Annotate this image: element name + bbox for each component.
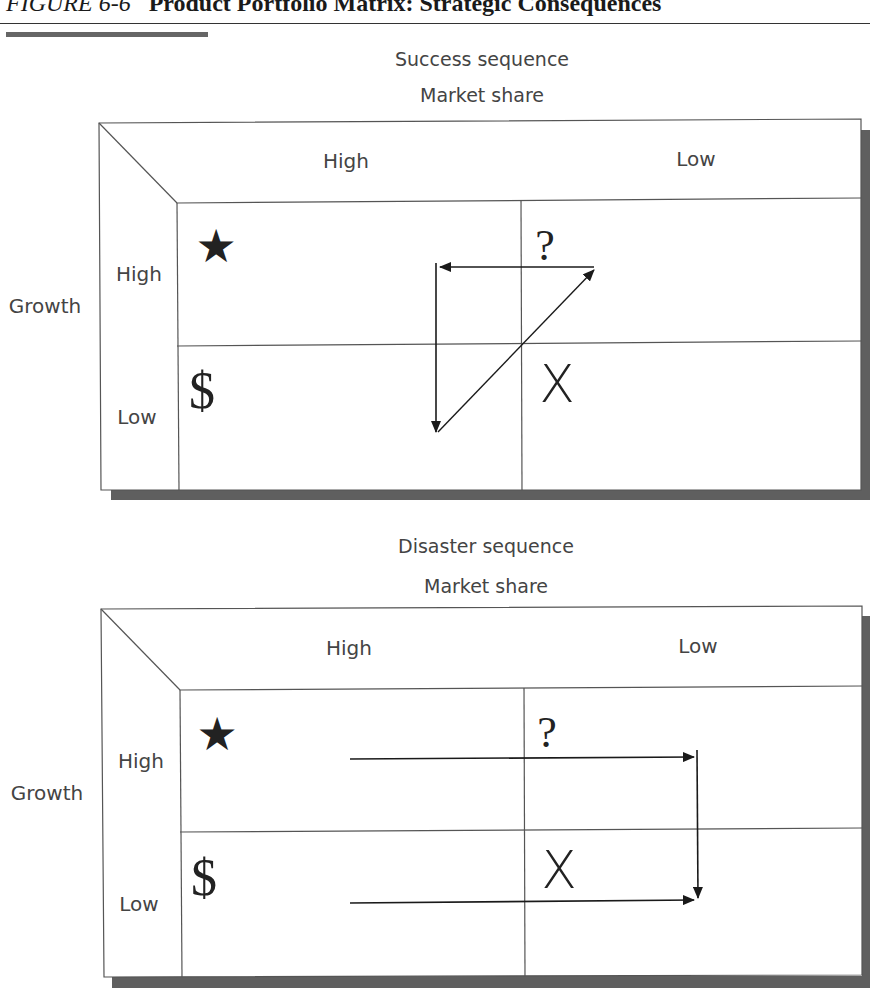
success-col-low: Low	[676, 147, 715, 171]
arrow-question-to-dog	[697, 750, 698, 898]
disaster-y-axis-label: Growth	[11, 781, 83, 805]
disaster-col-low: Low	[678, 634, 717, 658]
success-x-axis-label: Market share	[420, 84, 544, 106]
success-panel: Success sequence Market share High Low H…	[9, 48, 870, 500]
disaster-x-axis-label: Market share	[424, 575, 548, 597]
disaster-col-high: High	[326, 636, 372, 660]
disaster-panel: Disaster sequence Market share High Low …	[11, 535, 870, 988]
question-mark-icon: ?	[537, 708, 557, 757]
disaster-heading: Disaster sequence	[398, 535, 574, 557]
question-mark-icon: ?	[535, 221, 555, 270]
dollar-sign-icon: $	[191, 849, 217, 906]
portfolio-matrix-diagram: Success sequence Market share High Low H…	[0, 0, 870, 988]
success-outer-box	[99, 119, 861, 490]
disaster-row-low: Low	[119, 892, 158, 916]
success-row-high: High	[116, 262, 162, 286]
success-row-low: Low	[117, 405, 156, 429]
disaster-row-high: High	[118, 749, 164, 773]
success-heading: Success sequence	[395, 48, 569, 70]
success-col-high: High	[323, 149, 369, 173]
x-mark-icon: X	[541, 840, 577, 900]
disaster-outer-box	[101, 606, 862, 977]
x-mark-icon: X	[539, 354, 575, 414]
success-y-axis-label: Growth	[9, 294, 81, 318]
star-icon: ★	[195, 219, 236, 273]
dollar-sign-icon: $	[189, 362, 215, 419]
star-icon: ★	[196, 707, 237, 761]
